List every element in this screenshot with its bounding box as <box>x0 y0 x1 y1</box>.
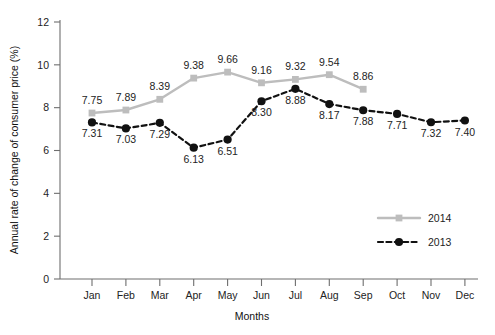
data-point <box>291 85 299 93</box>
data-point-label: 7.75 <box>82 94 103 106</box>
x-tick-label: Mar <box>151 289 170 301</box>
data-point-label: 9.38 <box>183 59 204 71</box>
x-tick-label: Apr <box>186 289 203 301</box>
data-point <box>122 124 130 132</box>
data-point-label: 7.29 <box>150 128 171 140</box>
data-point-label: 7.32 <box>421 127 442 139</box>
data-point-label: 6.13 <box>183 153 204 165</box>
data-point-label: 9.32 <box>285 60 306 72</box>
data-point-label: 7.88 <box>353 115 374 127</box>
y-tick-label: 0 <box>43 273 49 285</box>
data-point <box>461 116 469 124</box>
data-point <box>88 118 96 126</box>
data-point <box>325 100 333 108</box>
data-point <box>190 144 198 152</box>
data-point-label: 8.88 <box>285 94 306 106</box>
legend-marker <box>396 215 403 222</box>
y-tick-label: 4 <box>43 187 49 199</box>
data-point <box>123 107 130 114</box>
y-tick-label: 12 <box>37 16 49 28</box>
data-point <box>156 119 164 127</box>
x-tick-label: Dec <box>456 289 475 301</box>
data-point <box>359 106 367 114</box>
x-tick-label: Jul <box>289 289 302 301</box>
data-point-label: 6.51 <box>217 145 238 157</box>
legend-label: 2014 <box>428 212 452 224</box>
data-point-label: 7.89 <box>116 91 137 103</box>
data-point-label: 9.66 <box>217 53 238 65</box>
x-axis-title: Months <box>235 310 269 322</box>
chart-canvas: 024681012 Annual rate of change of consu… <box>0 0 495 335</box>
data-point <box>224 69 231 76</box>
x-tick-label: Oct <box>389 289 405 301</box>
y-tick-label: 8 <box>43 101 49 113</box>
data-point-label: 8.30 <box>251 106 272 118</box>
data-point <box>89 110 96 117</box>
x-tick-label: Jun <box>253 289 270 301</box>
consumer-price-line-chart: 024681012 Annual rate of change of consu… <box>0 0 495 335</box>
data-point-label: 7.71 <box>387 119 408 131</box>
x-tick-label: Sep <box>354 289 373 301</box>
data-point <box>258 79 265 86</box>
y-tick-label: 2 <box>43 230 49 242</box>
data-point-label: 7.31 <box>82 127 103 139</box>
legend-marker <box>395 238 403 246</box>
data-point <box>257 97 265 105</box>
x-tick-label: Feb <box>117 289 135 301</box>
x-tick-label: Nov <box>422 289 441 301</box>
y-tick-label: 6 <box>43 144 49 156</box>
x-tick-label: Jan <box>84 289 101 301</box>
data-point <box>360 86 367 93</box>
data-point <box>393 110 401 118</box>
data-point <box>156 96 163 103</box>
data-point <box>326 71 333 78</box>
y-tick-label: 10 <box>37 59 49 71</box>
data-point <box>190 75 197 82</box>
data-point <box>427 118 435 126</box>
x-tick-label: May <box>218 289 239 301</box>
data-point-label: 7.03 <box>116 133 137 145</box>
data-point-label: 8.86 <box>353 70 374 82</box>
data-point <box>292 76 299 83</box>
data-point-label: 8.39 <box>150 80 171 92</box>
data-point-label: 7.40 <box>455 126 476 138</box>
x-tick-label: Aug <box>320 289 339 301</box>
y-axis-title: Annual rate of change of consumer price … <box>8 46 20 254</box>
data-point <box>224 135 232 143</box>
chart-background <box>0 0 495 335</box>
data-point-label: 9.16 <box>251 64 272 76</box>
data-point-label: 8.17 <box>319 109 340 121</box>
legend-label: 2013 <box>428 236 452 248</box>
data-point-label: 9.54 <box>319 56 340 68</box>
